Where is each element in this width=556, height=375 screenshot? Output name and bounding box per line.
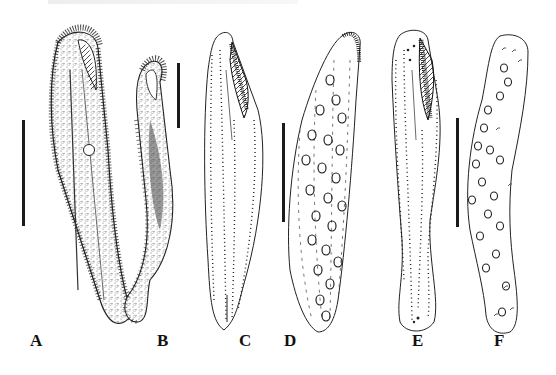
panel-b-cell (125, 58, 173, 322)
scale-bar-b (177, 63, 180, 128)
panel-c-infraciliature-ventral (205, 32, 263, 330)
scale-bar-cd (282, 123, 285, 222)
scale-bar-a (22, 120, 25, 226)
panel-label-a: A (30, 332, 42, 349)
figure-plate (0, 0, 556, 375)
panel-label-c: C (239, 332, 251, 349)
scale-bar-ef (456, 118, 459, 227)
panel-d-infraciliature-dorsal (289, 32, 361, 332)
panel-label-f: F (494, 332, 504, 349)
panel-label-b: B (157, 332, 168, 349)
panel-e-infraciliature-ventral (392, 30, 440, 331)
panel-label-d: D (284, 332, 296, 349)
panel-a-cell (51, 27, 132, 323)
panel-f-infraciliature-dorsal (468, 35, 528, 333)
panel-label-e: E (412, 332, 423, 349)
